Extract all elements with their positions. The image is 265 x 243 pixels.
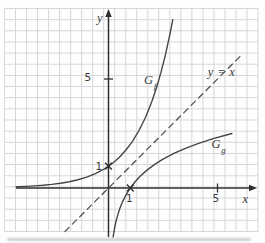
function-graph-figure: y x 5 1 1 5 Gf Gg y = x <box>0 0 265 243</box>
curve-g-label-sub: g <box>221 144 226 154</box>
curve-f-label: Gf <box>144 73 156 90</box>
scan-shadow-bottom-edge <box>7 238 251 241</box>
y-axis-label: y <box>97 11 103 26</box>
curve-f-label-main: G <box>144 73 153 87</box>
plot-canvas <box>0 0 265 243</box>
curve-f-label-sub: f <box>154 80 157 90</box>
x-tick-1-label: 1 <box>126 192 133 204</box>
curve-g-label-main: G <box>211 137 220 151</box>
curve-g-label: Gg <box>211 137 225 154</box>
x-tick-5-label: 5 <box>213 192 220 204</box>
y-tick-5-label: 5 <box>85 71 92 83</box>
y-tick-1-label: 1 <box>96 160 103 172</box>
x-axis-label: x <box>243 191 249 206</box>
identity-line-label: y = x <box>208 65 235 80</box>
